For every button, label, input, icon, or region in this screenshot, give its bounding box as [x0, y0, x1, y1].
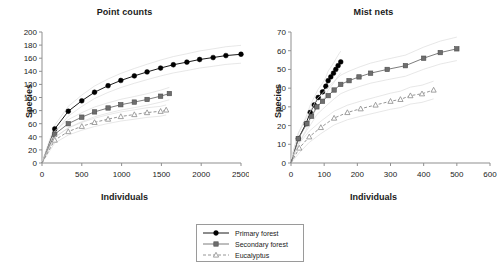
panel-title: Mist nets: [249, 7, 498, 17]
y-axis-label: Species: [24, 66, 34, 136]
svg-text:600: 600: [483, 170, 497, 179]
x-axis-label: Individuals: [0, 192, 249, 202]
svg-text:400: 400: [417, 170, 431, 179]
svg-text:300: 300: [384, 170, 398, 179]
svg-text:1500: 1500: [153, 170, 171, 179]
chart-legend: Primary forestSecondary forestEucalyptus: [196, 224, 304, 262]
chart-panel-mist-nets: Mist nets Species 0102030405060700100200…: [249, 0, 498, 215]
open-triangle-icon: [201, 250, 231, 260]
svg-text:0: 0: [33, 159, 38, 168]
svg-text:160: 160: [24, 54, 38, 63]
svg-text:0: 0: [40, 170, 45, 179]
svg-text:180: 180: [24, 41, 38, 50]
svg-text:70: 70: [277, 28, 286, 37]
svg-text:100: 100: [317, 170, 331, 179]
panel-title: Point counts: [0, 7, 249, 17]
plot-svg: 0204060801001201401601802000500100015002…: [0, 24, 249, 184]
x-axis-label: Individuals: [249, 192, 498, 202]
svg-text:0: 0: [289, 170, 294, 179]
svg-text:2000: 2000: [192, 170, 210, 179]
y-axis-label: Species: [273, 66, 283, 136]
chart-panel-point-counts: Point counts Species 0204060801001201401…: [0, 0, 249, 215]
svg-text:500: 500: [450, 170, 464, 179]
legend-label: Eucalyptus: [231, 252, 269, 259]
legend-label: Primary forest: [231, 230, 279, 237]
plot-area: Species 02040608010012014016018020005001…: [0, 24, 249, 184]
plot-area: Species 01020304050607001002003004005006…: [249, 24, 498, 184]
svg-text:0: 0: [282, 159, 287, 168]
svg-text:10: 10: [277, 140, 286, 149]
svg-text:1000: 1000: [113, 170, 131, 179]
svg-text:200: 200: [24, 28, 38, 37]
legend-label: Secondary forest: [231, 241, 288, 248]
svg-text:60: 60: [277, 47, 286, 56]
svg-text:20: 20: [28, 146, 37, 155]
legend-item: Primary forest: [201, 228, 299, 238]
legend-item: Eucalyptus: [201, 250, 299, 260]
filled-circle-icon: [201, 228, 231, 238]
legend-item: Secondary forest: [201, 239, 299, 249]
svg-text:200: 200: [351, 170, 365, 179]
filled-square-icon: [201, 239, 231, 249]
figure-species-accumulation: Point counts Species 0204060801001201401…: [0, 0, 498, 270]
plot-svg: 0102030405060700100200300400500600: [249, 24, 498, 184]
svg-text:2500: 2500: [232, 170, 249, 179]
svg-text:500: 500: [75, 170, 89, 179]
